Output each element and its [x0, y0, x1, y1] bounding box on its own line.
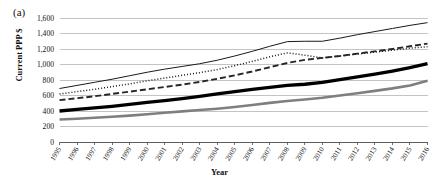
- x-tick-label: 2007: [259, 145, 274, 162]
- x-tick-label: 1996: [66, 145, 81, 162]
- x-tick-label: 2006: [242, 145, 257, 162]
- y-tick-label: 1,400: [37, 29, 54, 38]
- series-1-thin-solid: [60, 23, 428, 89]
- data-series: [60, 23, 428, 120]
- y-tick-label: 600: [43, 91, 55, 100]
- x-tick-label: 2013: [364, 145, 379, 162]
- x-tick-label: 1995: [49, 145, 64, 162]
- line-chart-plot: 02004006008001,0001,2001,4001,600 199519…: [0, 0, 439, 184]
- x-tick-label: 2009: [294, 145, 309, 162]
- x-tick-label: 2003: [189, 145, 204, 162]
- x-tick-label: 2000: [136, 145, 151, 162]
- x-tick-label: 2012: [347, 145, 362, 162]
- x-axis-ticks: 1995199619971998199920002001200220032004…: [49, 145, 432, 162]
- y-tick-label: 0: [50, 138, 54, 147]
- x-tick-label: 2016: [417, 145, 432, 162]
- x-tick-label: 2011: [329, 145, 343, 162]
- x-tick-label: 2008: [277, 145, 292, 162]
- x-tick-label: 2004: [207, 145, 222, 162]
- y-tick-label: 800: [43, 76, 55, 85]
- y-tick-label: 400: [43, 107, 55, 116]
- x-tick-label: 2002: [171, 145, 186, 162]
- x-tick-label: 2015: [399, 145, 414, 162]
- x-tick-label: 1998: [101, 145, 116, 162]
- series-5-thick-solid-gray: [60, 81, 428, 120]
- gridlines: [60, 18, 428, 127]
- y-tick-label: 1,000: [37, 60, 54, 69]
- x-tick-label: 2005: [224, 145, 239, 162]
- y-axis-ticks: 02004006008001,0001,2001,4001,600: [37, 14, 54, 147]
- axis-lines: [60, 142, 428, 145]
- x-tick-label: 1997: [84, 145, 99, 162]
- y-tick-label: 200: [43, 122, 55, 131]
- x-tick-label: 2001: [154, 145, 169, 162]
- x-tick-label: 1999: [119, 145, 134, 162]
- x-tick-label: 2014: [382, 145, 397, 162]
- figure-panel-a: (a) Current PPP $ Year 02004006008001,00…: [0, 0, 439, 184]
- x-tick-label: 2010: [312, 145, 327, 162]
- y-tick-label: 1,600: [37, 14, 54, 23]
- y-tick-label: 1,200: [37, 45, 54, 54]
- series-4-thick-solid-black: [60, 64, 428, 111]
